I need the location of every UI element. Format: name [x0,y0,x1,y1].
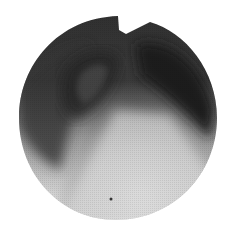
dot-marker [110,198,113,201]
field-of-view [0,0,232,232]
xray-svg [0,0,232,232]
